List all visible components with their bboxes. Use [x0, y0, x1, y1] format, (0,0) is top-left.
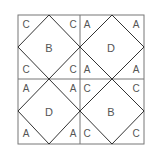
corner-label: C: [83, 129, 90, 139]
corner-label: C: [69, 20, 76, 30]
corner-label: A: [23, 84, 30, 94]
corner-label: A: [133, 20, 140, 30]
center-label: B: [45, 43, 52, 53]
corner-label: A: [84, 20, 91, 30]
center-label: D: [107, 43, 115, 53]
center-label: D: [45, 107, 53, 117]
corner-label: A: [70, 84, 77, 94]
corner-label: C: [69, 65, 76, 75]
corner-label: A: [84, 65, 91, 75]
corner-label: C: [132, 84, 139, 94]
corner-label: C: [132, 129, 139, 139]
corner-label: C: [22, 20, 29, 30]
corner-label: A: [70, 129, 77, 139]
corner-label: C: [22, 65, 29, 75]
corner-label: C: [83, 84, 90, 94]
center-label: B: [107, 107, 114, 117]
corner-label: A: [23, 129, 30, 139]
corner-label: A: [133, 65, 140, 75]
